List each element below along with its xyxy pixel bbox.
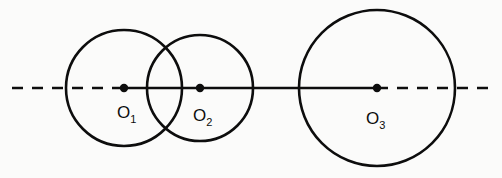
label-o2: O2 — [193, 106, 212, 128]
label-o2-subscript: 2 — [206, 116, 212, 128]
label-o1-subscript: 1 — [130, 113, 136, 125]
label-o3-subscript: 3 — [379, 119, 385, 131]
label-o1-base: O — [117, 103, 130, 122]
figure-canvas: O1 O2 O3 — [0, 0, 502, 178]
center-point-o2 — [196, 84, 204, 92]
label-o2-base: O — [193, 106, 206, 125]
center-point-o3 — [373, 84, 381, 92]
center-point-o1 — [120, 84, 128, 92]
label-o1: O1 — [117, 103, 136, 125]
label-o3-base: O — [366, 109, 379, 128]
label-o3: O3 — [366, 109, 385, 131]
three-circles-diagram: O1 O2 O3 — [0, 0, 502, 178]
